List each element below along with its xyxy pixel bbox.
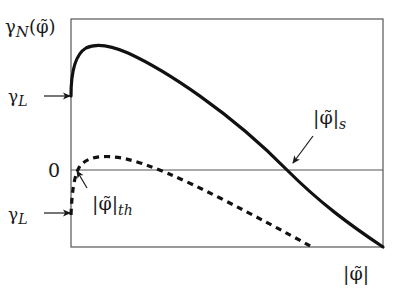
gamma-l-upper-label: γL (8, 86, 27, 109)
phi-th-arrow (77, 171, 87, 188)
zero-label: 0 (48, 159, 60, 181)
phi-s-arrow (293, 136, 313, 163)
gamma-l-lower-label: γL (8, 204, 27, 227)
y-axis-label: γN(φ̃) (5, 16, 56, 41)
phi-th-label: |φ̃|th (92, 192, 133, 218)
x-axis-label: |φ̃| (343, 262, 369, 285)
phi-s-label: |φ̃|s (313, 106, 346, 132)
chart: γN(φ̃) γL 0 γL |φ̃|th |φ̃|s |φ̃| (0, 0, 403, 300)
